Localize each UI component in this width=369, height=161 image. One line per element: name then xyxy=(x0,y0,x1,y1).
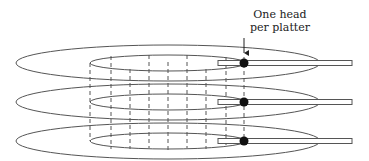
head-label: One head per platter xyxy=(240,8,320,34)
head-label-line1: One head xyxy=(240,8,320,21)
read-write-head-2 xyxy=(240,98,249,107)
read-write-head-1 xyxy=(240,59,249,68)
read-write-head-3 xyxy=(240,137,249,146)
head-label-line2: per platter xyxy=(240,21,320,34)
disk-platters-diagram: One head per platter xyxy=(0,0,369,161)
